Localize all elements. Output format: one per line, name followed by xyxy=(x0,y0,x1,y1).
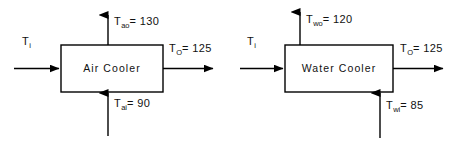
water-cooler-water-out-subscript: wo xyxy=(313,19,323,28)
water-cooler-outlet-label: TO= 125 xyxy=(400,43,443,57)
air-cooler-air-in-value: = 90 xyxy=(127,97,150,109)
air-cooler-outlet-label: TO= 125 xyxy=(169,43,212,57)
air-cooler-unit xyxy=(14,15,213,136)
air-cooler-air-in-label: Tai= 90 xyxy=(114,98,150,112)
air-cooler-air-out-label: Tao= 130 xyxy=(114,16,159,30)
water-cooler-water-out-label: Two= 120 xyxy=(306,14,353,28)
air-cooler-inlet-subscript: i xyxy=(29,41,31,50)
water-cooler-water-in-value: = 85 xyxy=(400,99,423,111)
water-cooler-box-label: Water Cooler xyxy=(285,62,393,74)
water-cooler-outlet-value: = 125 xyxy=(413,42,443,54)
water-cooler-inlet-subscript: i xyxy=(254,41,256,50)
water-cooler-inlet-label: Ti xyxy=(247,36,256,50)
water-cooler-water-in-label: Twi= 85 xyxy=(386,100,424,114)
diagram-canvas: Air Cooler Ti TO= 125 Tao= 130 Tai= 90 W… xyxy=(0,0,456,142)
water-cooler-water-out-value: = 120 xyxy=(323,13,353,25)
air-cooler-air-out-value: = 130 xyxy=(129,15,159,27)
air-cooler-outlet-value: = 125 xyxy=(182,42,212,54)
water-cooler-unit xyxy=(240,12,443,138)
air-cooler-box-label: Air Cooler xyxy=(61,62,163,74)
air-cooler-inlet-label: Ti xyxy=(22,36,31,50)
